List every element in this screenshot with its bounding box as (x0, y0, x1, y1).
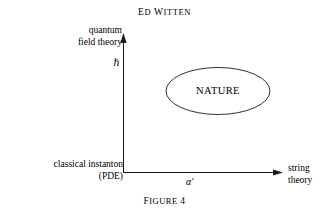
origin-label: classical instanton (PDE) (54, 158, 123, 182)
x-axis-end-label: string theory (288, 162, 312, 186)
y-axis-label: quantum field theory (78, 24, 122, 48)
figure-page: ED WITTEN quantum field theory ℏ classic… (0, 0, 329, 213)
caption-number: 4 (180, 196, 185, 206)
y-axis-label-line2: field theory (78, 36, 122, 48)
origin-label-line2: (PDE) (54, 170, 123, 182)
y-axis-unit-symbol: ℏ (114, 57, 120, 68)
x-axis-arrowhead-icon (273, 169, 283, 175)
origin-label-line1: classical instanton (54, 158, 123, 170)
x-axis-label: α′ (186, 176, 193, 187)
x-axis-end-label-line1: string (288, 162, 312, 174)
y-axis-label-line1: quantum (78, 24, 122, 36)
diagram-canvas (0, 0, 329, 213)
nature-region-label: NATURE (166, 85, 270, 96)
figure-caption: FIGURE 4 (0, 196, 329, 206)
caption-word-rest: IGURE (149, 196, 177, 206)
x-axis-end-label-line2: theory (288, 174, 312, 186)
